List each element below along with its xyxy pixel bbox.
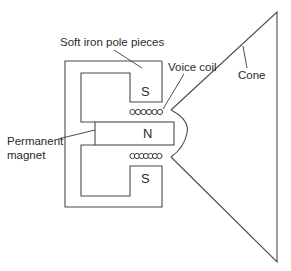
cone [171, 12, 277, 262]
permanent-magnet [95, 122, 174, 145]
label-pole-pieces: Soft iron pole pieces [60, 36, 164, 48]
leader-pole-pieces [114, 50, 142, 68]
label-cone: Cone [238, 69, 266, 81]
pole-label-bottom-s: S [141, 171, 150, 186]
leader-voice-coil [163, 74, 184, 109]
leader-magnet [58, 130, 95, 139]
label-voice-coil: Voice coil [168, 61, 217, 73]
label-magnet-line2: magnet [7, 149, 46, 161]
loudspeaker-diagram: S N S Soft iron pole pieces Voice coil C… [0, 0, 291, 271]
pole-label-top-s: S [141, 84, 150, 99]
voice-coil-top [130, 109, 163, 114]
label-magnet-line1: Permanent [7, 135, 64, 147]
leader-cone [243, 46, 247, 68]
voice-coil-bottom [130, 153, 162, 158]
pole-label-n: N [143, 126, 152, 141]
